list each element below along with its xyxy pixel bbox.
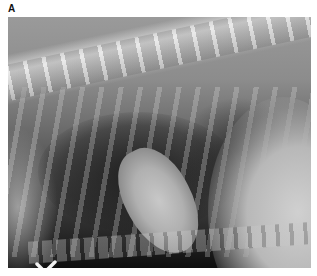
chevron-marker-icon [35,257,57,268]
panel-label: A [8,3,15,14]
radiograph-image [8,17,311,268]
